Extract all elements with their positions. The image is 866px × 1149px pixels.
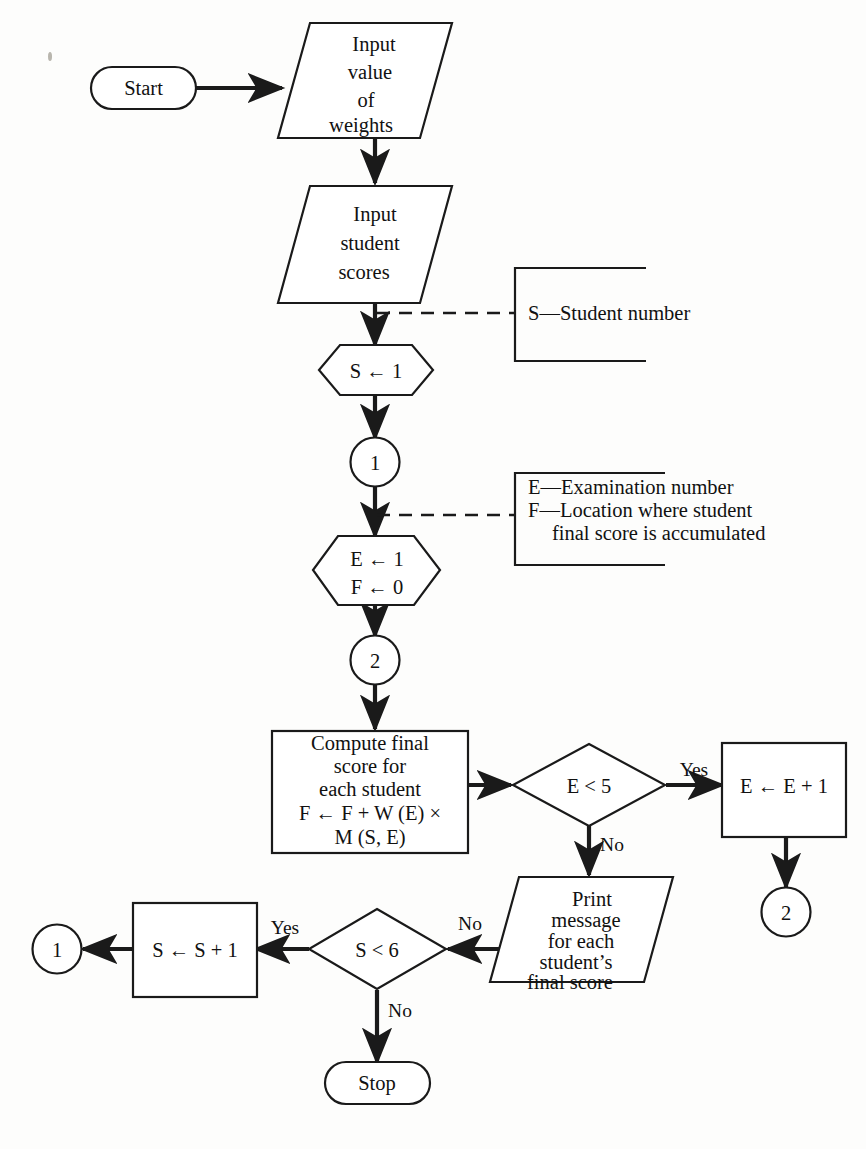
node-set-s[interactable]: S ← 1 [319, 345, 433, 395]
node-connector-2-top[interactable]: 2 [351, 636, 400, 685]
node-input-weights-line-2: value [348, 61, 392, 83]
node-input-scores-line-2: student [340, 232, 400, 254]
annotation-note-s-line-1: S—Student number [528, 302, 690, 324]
edge-label-s-no: No [388, 1000, 412, 1021]
node-connector-1-bottom[interactable]: 1 [33, 925, 82, 974]
node-print-line-4: student’s [540, 951, 613, 973]
node-set-e-f-line-1: E ← 1 [350, 548, 404, 570]
node-connector-1-bottom-label: 1 [52, 939, 62, 961]
node-input-weights-line-4: weights [329, 114, 393, 137]
node-connector-1-top[interactable]: 1 [351, 438, 400, 487]
node-start-label: Start [124, 77, 163, 99]
annotation-note-ef-line-3: final score is accumulated [552, 522, 765, 544]
node-stop-label: Stop [358, 1072, 396, 1095]
edge-label-e-no: No [600, 834, 624, 855]
node-decision-e[interactable]: E < 5 [513, 744, 665, 826]
node-set-s-label: S ← 1 [350, 360, 402, 382]
node-increment-s[interactable]: S ← S + 1 [133, 903, 257, 997]
node-increment-s-label: S ← S + 1 [152, 939, 238, 961]
node-compute-line-5: M (S, E) [334, 826, 405, 849]
node-input-weights-line-3: of [357, 89, 374, 111]
edge-label-print-no: No [458, 913, 482, 934]
node-print[interactable]: Print message for each student’s final s… [490, 877, 673, 993]
node-connector-2-bottom-label: 2 [781, 902, 791, 924]
node-set-e-f[interactable]: E ← 1 F ← 0 [313, 536, 440, 605]
node-compute-line-3: each student [319, 778, 421, 800]
node-print-line-2: message [551, 909, 620, 932]
node-decision-e-label: E < 5 [567, 775, 612, 797]
node-compute-line-1: Compute final [311, 732, 429, 755]
node-input-weights[interactable]: Input value of weights [278, 23, 452, 138]
edge-label-e-yes: Yes [680, 759, 708, 780]
node-increment-e-label: E ← E + 1 [740, 775, 828, 797]
node-compute-line-4: F ← F + W (E) × [299, 802, 441, 825]
node-connector-2-bottom[interactable]: 2 [762, 888, 811, 937]
node-stop[interactable]: Stop [325, 1062, 430, 1104]
node-input-weights-line-1: Input [352, 33, 396, 56]
node-print-line-5: final score [527, 971, 613, 993]
node-connector-2-top-label: 2 [370, 650, 380, 672]
node-connector-1-top-label: 1 [370, 452, 380, 474]
node-increment-e[interactable]: E ← E + 1 [722, 743, 846, 837]
node-set-e-f-line-2: F ← 0 [351, 576, 403, 598]
annotation-note-ef: E—Examination number F—Location where st… [528, 476, 765, 544]
node-input-scores-line-3: scores [338, 261, 389, 283]
flowchart-canvas: Start Input value of weights Input stude… [0, 0, 866, 1149]
flowchart-svg: Start Input value of weights Input stude… [0, 0, 866, 1149]
node-start[interactable]: Start [91, 67, 196, 109]
edge-label-s-yes: Yes [271, 917, 299, 938]
node-print-line-1: Print [572, 888, 612, 910]
node-print-line-3: for each [548, 930, 615, 952]
node-input-scores[interactable]: Input student scores [278, 186, 452, 303]
annotation-note-ef-line-1: E—Examination number [528, 476, 734, 498]
node-decision-s-label: S < 6 [355, 939, 398, 961]
node-compute[interactable]: Compute final score for each student F ←… [272, 731, 468, 853]
node-decision-s[interactable]: S < 6 [309, 909, 446, 989]
annotation-note-ef-line-2: F—Location where student [528, 499, 753, 521]
node-compute-line-2: score for [334, 755, 406, 777]
node-input-scores-line-1: Input [353, 203, 397, 226]
annotation-note-s: S—Student number [528, 302, 690, 324]
